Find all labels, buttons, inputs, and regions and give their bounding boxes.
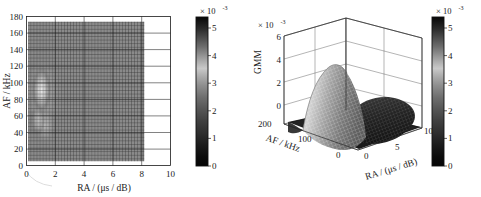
z-tick-label: 2 (277, 78, 282, 88)
colorbar-tick-label: 1 (212, 133, 217, 143)
z-axis-exponent: -3 (281, 19, 286, 25)
colorbar-tick-label: 0 (212, 161, 217, 171)
left-colorbar-exponent: -3 (223, 5, 228, 11)
x-tick-label: 8 (139, 169, 144, 179)
left-colorbar: × 10 -3 0 1 2 3 4 5 (196, 5, 228, 172)
right-panel-svg: × 10 -3 6 4 2 0 GMM 200 100 0 AF / kHz 0… (240, 0, 481, 197)
x-axis-label-3d: RA / (μs / dB) (364, 157, 419, 183)
right-colorbar-tick-labels: 0 1 2 3 4 5 (448, 23, 453, 171)
z-tick-label: 6 (277, 32, 282, 42)
y-tick-label: 0 (19, 161, 24, 171)
y-tick-label: 0 (336, 150, 341, 160)
colorbar-tick-label: 5 (448, 23, 453, 33)
left-panel-heatmap: 180 160 140 120 100 80 60 40 20 0 0 2 4 … (0, 0, 240, 197)
y-tick-label: 120 (10, 61, 24, 71)
figure-container: 180 160 140 120 100 80 60 40 20 0 0 2 4 … (0, 0, 481, 197)
y-axis-label-3d: AF / kHz (265, 133, 302, 154)
left-colorbar-tick-labels: 0 1 2 3 4 5 (212, 23, 217, 171)
z-axis-multiplier: × 10 (258, 20, 273, 30)
colorbar-tick-label: 3 (212, 78, 217, 88)
right-colorbar-multiplier: × 10 (436, 6, 451, 16)
right-colorbar-exponent: -3 (459, 5, 464, 11)
y-tick-label: 80 (14, 95, 24, 105)
z-axis-label: GMM (253, 50, 263, 74)
mesh-overlay (28, 22, 145, 162)
y-tick-label: 160 (10, 28, 24, 38)
colorbar-tick-label: 0 (448, 161, 453, 171)
x-tick-label: 0 (364, 151, 369, 161)
y-tick-label: 20 (14, 144, 24, 154)
y-tick-label: 200 (258, 119, 272, 129)
colorbar-tick-label: 4 (448, 51, 453, 61)
x-tick-label: 6 (111, 169, 116, 179)
left-panel-svg: 180 160 140 120 100 80 60 40 20 0 0 2 4 … (0, 0, 240, 197)
y-tick-label: 180 (10, 12, 24, 22)
x-tick-label: 2 (53, 169, 58, 179)
colorbar-tick-label: 4 (212, 51, 217, 61)
z-axis-ticks: 6 4 2 0 (277, 32, 282, 111)
x-tick-label: 0 (24, 169, 29, 179)
right-colorbar: × 10 -3 0 1 2 3 4 5 (432, 5, 464, 172)
right-colorbar-ticks (444, 28, 447, 166)
y-tick-label: 40 (14, 128, 24, 138)
colorbar-tick-label: 2 (212, 106, 217, 116)
left-colorbar-multiplier: × 10 (200, 6, 215, 16)
left-y-axis-label: AF / kHz (2, 73, 12, 108)
y-tick-label: 100 (298, 134, 312, 144)
colorbar-tick-label: 5 (212, 23, 217, 33)
right-colorbar-gradient (432, 17, 444, 166)
z-tick-label: 4 (277, 55, 282, 65)
colorbar-tick-label: 1 (448, 133, 453, 143)
x-tick-label: 5 (395, 142, 400, 152)
left-x-axis-ticks: 0 2 4 6 8 10 (24, 169, 175, 179)
y-tick-label: 140 (10, 45, 24, 55)
x-tick-label: 4 (82, 169, 87, 179)
right-panel-surface: × 10 -3 6 4 2 0 GMM 200 100 0 AF / kHz 0… (240, 0, 481, 197)
z-tick-label: 0 (277, 101, 282, 111)
scan-artifact (26, 171, 52, 186)
left-x-axis-label: RA / (μs / dB) (77, 183, 131, 194)
colorbar-tick-label: 3 (448, 78, 453, 88)
x-tick-label: 10 (166, 169, 176, 179)
colorbar-tick-label: 2 (448, 106, 453, 116)
left-colorbar-gradient (196, 17, 208, 166)
y-tick-label: 60 (14, 111, 24, 121)
